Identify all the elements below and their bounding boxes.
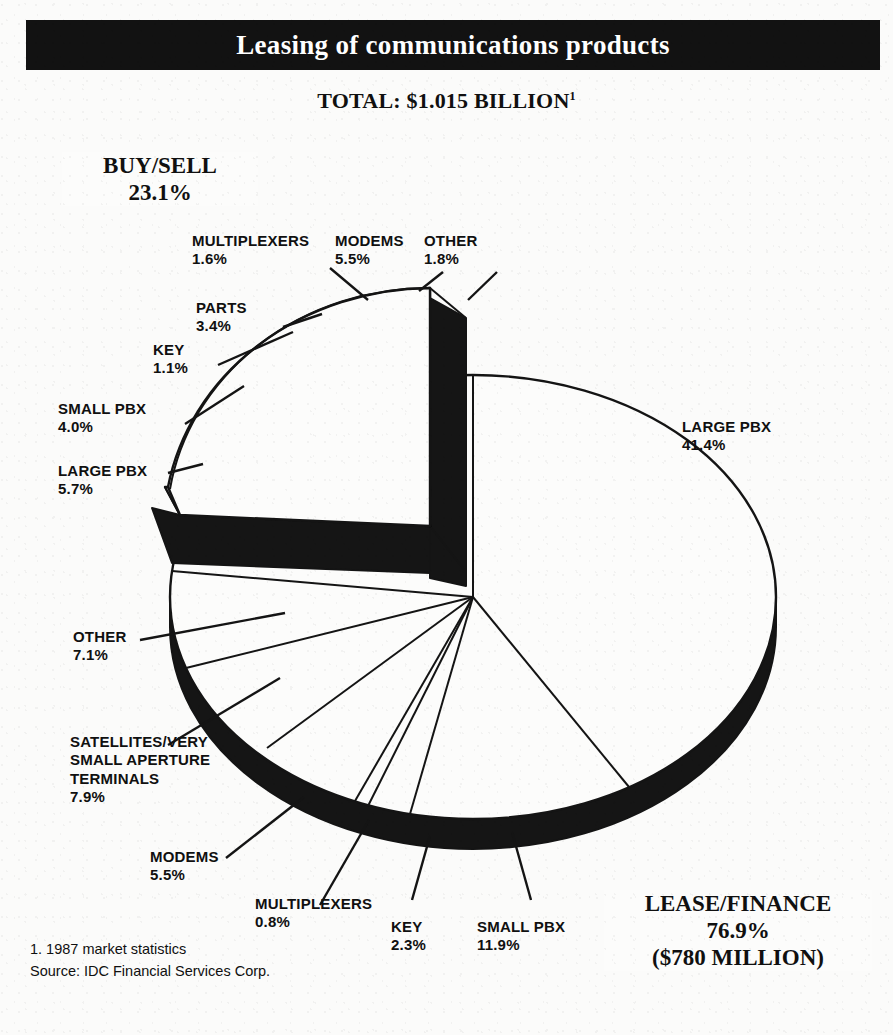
lease-finance-callout: LEASE/FINANCE 76.9% ($780 MILLION) bbox=[604, 890, 872, 971]
callout-key-top: KEY 1.1% bbox=[153, 341, 188, 378]
callout-large-pbx-main: LARGE PBX 41.4% bbox=[682, 418, 771, 455]
chart-page: Leasing of communications products TOTAL… bbox=[0, 0, 893, 1035]
callout-other-top: OTHER 1.8% bbox=[424, 232, 478, 269]
callout-small-pbx-top: SMALL PBX 4.0% bbox=[58, 400, 146, 437]
footnote-source: Source: IDC Financial Services Corp. bbox=[30, 960, 270, 982]
buy-sell-label: BUY/SELL bbox=[62, 152, 258, 179]
callout-large-pbx-top: LARGE PBX 5.7% bbox=[58, 462, 147, 499]
lease-finance-percent: 76.9% bbox=[604, 917, 872, 944]
lease-finance-amount: ($780 MILLION) bbox=[604, 944, 872, 971]
callout-other-main: OTHER 7.1% bbox=[73, 628, 127, 665]
footnote-block: 1. 1987 market statistics Source: IDC Fi… bbox=[30, 938, 270, 983]
callout-multiplexers-top: MULTIPLEXERS 1.6% bbox=[192, 232, 309, 269]
callout-small-pbx-main: SMALL PBX 11.9% bbox=[477, 918, 565, 955]
callout-key-main: KEY 2.3% bbox=[391, 918, 426, 955]
callout-satellites-main: SATELLITES/VERY SMALL APERTURE TERMINALS… bbox=[70, 733, 210, 806]
callout-multiplexers-main: MULTIPLEXERS 0.8% bbox=[255, 895, 372, 932]
callout-modems-top: MODEMS 5.5% bbox=[335, 232, 404, 269]
footnote-line-1: 1. 1987 market statistics bbox=[30, 938, 270, 960]
buy-sell-percent: 23.1% bbox=[62, 179, 258, 206]
callout-modems-main: MODEMS 5.5% bbox=[150, 848, 219, 885]
lease-finance-label: LEASE/FINANCE bbox=[604, 890, 872, 917]
buy-sell-callout: BUY/SELL 23.1% bbox=[62, 152, 258, 206]
callout-parts-top: PARTS 3.4% bbox=[196, 299, 247, 336]
